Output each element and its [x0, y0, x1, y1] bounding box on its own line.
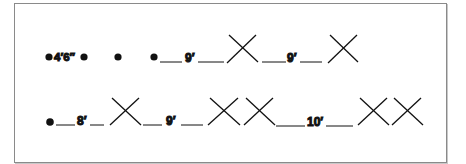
dot-marker [46, 118, 54, 126]
distance-label: 4′6″ [54, 51, 76, 63]
x-marker [392, 98, 423, 125]
distance-label: 9′ [287, 51, 297, 65]
x-marker [244, 98, 275, 125]
distance-label: 8′ [77, 114, 87, 128]
x-marker [208, 98, 240, 125]
distance-label: 10′ [307, 115, 323, 129]
x-marker [110, 98, 141, 125]
x-marker [328, 35, 358, 63]
distance-label: 9′ [166, 114, 176, 128]
spacing-diagram: 4′6″ 9′ 9′ 8′ 9′ [0, 0, 466, 164]
distance-label: 9′ [185, 51, 195, 65]
dot-marker [150, 53, 157, 60]
dot-marker [80, 53, 87, 60]
x-marker [227, 35, 258, 63]
dot-marker [114, 53, 121, 60]
x-marker [358, 98, 389, 125]
dot-marker [45, 53, 52, 60]
